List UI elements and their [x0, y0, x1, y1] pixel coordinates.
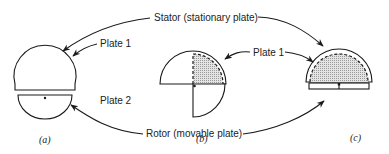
- arrow-stator-c: [258, 17, 323, 46]
- pivot-dot-b: [193, 85, 196, 88]
- label-stator: Stator (stationary plate): [154, 12, 258, 23]
- figure-c: (c): [306, 49, 372, 144]
- label-plate1-a: Plate 1: [100, 38, 132, 49]
- arrow-plate1-c: [285, 52, 313, 62]
- rotor-plate-b: [193, 84, 225, 117]
- label-plate1-bc: Plate 1: [253, 47, 285, 58]
- arrow-plate1-a: [73, 44, 97, 56]
- figure-a: (a): [14, 45, 76, 146]
- variable-capacitor-diagram: (a) (b) (c) Stator (stationary plate) Pl…: [0, 0, 389, 154]
- pivot-dot-a: [44, 97, 46, 99]
- arrow-rotor-a: [71, 105, 143, 134]
- caption-a: (a): [39, 134, 51, 146]
- arrow-plate1-b: [225, 52, 250, 59]
- stator-plate-1-a: [14, 45, 76, 90]
- arrow-rotor-c: [243, 101, 324, 134]
- label-plate2-a: Plate 2: [100, 95, 132, 106]
- label-rotor: Rotor (movable plate): [146, 128, 242, 139]
- caption-c: (c): [350, 132, 362, 144]
